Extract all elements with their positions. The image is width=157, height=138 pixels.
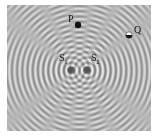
source-s2-label: S2 bbox=[91, 53, 100, 65]
interference-pattern bbox=[0, 0, 157, 138]
source-s1-label: S1 bbox=[59, 53, 68, 65]
point-p-label: P bbox=[68, 14, 74, 24]
point-q-label: Q bbox=[134, 25, 141, 35]
interference-figure: P Q S1 S2 bbox=[0, 0, 157, 138]
